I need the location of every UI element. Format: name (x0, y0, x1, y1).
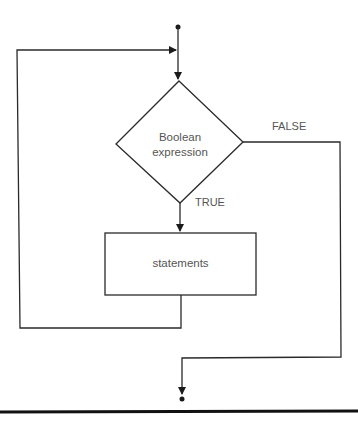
false-label: FALSE (272, 120, 306, 133)
decision-label-line2: expression (130, 145, 230, 160)
decision-label: Boolean expression (130, 130, 230, 160)
end-node (180, 397, 185, 402)
true-label: TRUE (195, 196, 225, 209)
bottom-rule (0, 411, 358, 412)
decision-label-line1: Boolean (130, 130, 230, 145)
flowchart-canvas (0, 0, 358, 424)
statements-label: statements (105, 257, 256, 270)
